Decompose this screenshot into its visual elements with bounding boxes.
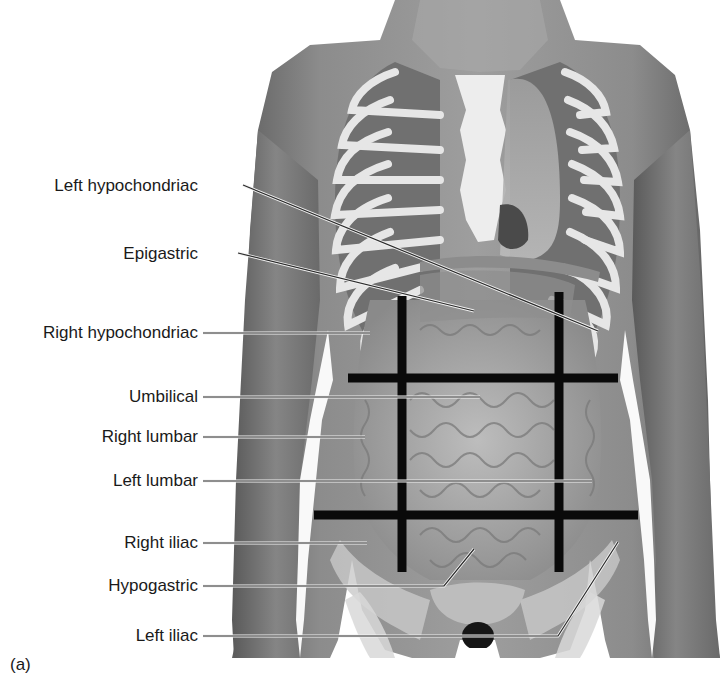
grid-vertical-line-2 bbox=[555, 292, 564, 572]
label-right-lumbar: Right lumbar bbox=[102, 427, 198, 447]
label-left-iliac: Left iliac bbox=[136, 626, 198, 646]
grid-horizontal-line-1 bbox=[348, 374, 618, 383]
label-right-hypochondriac: Right hypochondriac bbox=[43, 323, 198, 343]
label-left-lumbar: Left lumbar bbox=[113, 471, 198, 491]
grid-vertical-line-1 bbox=[398, 296, 407, 572]
label-right-iliac: Right iliac bbox=[124, 533, 198, 553]
label-epigastric: Epigastric bbox=[123, 244, 198, 264]
grid-horizontal-line-2 bbox=[314, 511, 638, 520]
abdominal-organs bbox=[330, 271, 620, 660]
abdominal-regions-figure: Left hypochondriac Epigastric Right hypo… bbox=[0, 0, 727, 696]
label-left-hypochondriac: Left hypochondriac bbox=[54, 176, 198, 196]
label-hypogastric: Hypogastric bbox=[108, 576, 198, 596]
label-umbilical: Umbilical bbox=[129, 387, 198, 407]
panel-label: (a) bbox=[10, 655, 31, 675]
